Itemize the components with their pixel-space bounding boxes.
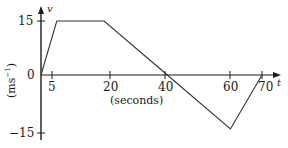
x-tick-label-20: 20 (103, 81, 118, 93)
y-axis-name-label: v (47, 4, 53, 14)
y-tick-label-minus-15: −15 (9, 127, 34, 139)
y-axis-unit-label: (ms−1) (5, 63, 17, 98)
y-unit-close-paren: ) (5, 63, 18, 67)
x-tick-label-60: 60 (223, 81, 238, 93)
x-axis-caption: (seconds) (110, 95, 163, 106)
x-tick-label-70: 70 (258, 81, 273, 93)
y-unit-main: (ms (5, 78, 18, 98)
x-tick-label-5: 5 (48, 81, 56, 93)
plot-area (0, 0, 288, 148)
velocity-time-graph-figure: 15 0 −15 5 20 40 60 70 v t (seconds) (ms… (0, 0, 288, 148)
x-axis-name-label: t (277, 78, 281, 88)
y-unit-exponent: −1 (4, 67, 12, 77)
y-tick-label-0: 0 (27, 69, 35, 81)
y-tick-label-15: 15 (18, 15, 33, 27)
x-axis (41, 72, 281, 78)
x-tick-label-40: 40 (158, 81, 173, 93)
y-axis (38, 6, 44, 140)
